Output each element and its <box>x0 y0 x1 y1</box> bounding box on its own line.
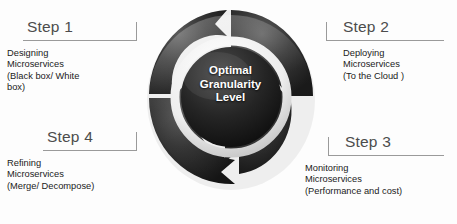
step-4-line-2: Microservices <box>7 169 94 180</box>
step-1-title: Step 1 <box>27 18 73 35</box>
step-1-block[interactable]: Step 1 Designing Microservices (Black bo… <box>27 18 73 35</box>
connector-line-step-3 <box>328 155 444 156</box>
center-label-line-1: Optimal <box>143 64 318 78</box>
step-2-line-1: Deploying <box>343 48 404 59</box>
connector-tick-step-2 <box>326 22 327 41</box>
connector-tick-step-3 <box>328 137 329 156</box>
cycle-wheel-graphic: Optimal Granularity Level <box>143 2 318 192</box>
step-1-description: Designing Microservices (Black box/ Whit… <box>7 48 79 93</box>
diagram-canvas: Optimal Granularity Level Step 1 Designi… <box>0 0 457 224</box>
step-3-description: Monitoring Microservices (Performance an… <box>305 163 402 197</box>
step-4-description: Refining Microservices (Merge/ Decompose… <box>7 158 94 192</box>
step-1-line-1: Designing <box>7 48 79 59</box>
connector-line-step-4 <box>43 150 136 151</box>
step-4-line-3: (Merge/ Decompose) <box>7 181 94 192</box>
step-4-block[interactable]: Step 4 Refining Microservices (Merge/ De… <box>47 128 93 145</box>
step-1-line-3: (Black box/ White <box>7 71 79 82</box>
center-label-line-2: Granularity <box>143 78 318 92</box>
step-3-block[interactable]: Step 3 Monitoring Microservices (Perform… <box>345 133 391 150</box>
step-4-title: Step 4 <box>47 128 93 145</box>
step-3-line-1: Monitoring <box>305 163 402 174</box>
step-2-line-2: Microservices <box>343 59 404 70</box>
step-3-title: Step 3 <box>345 133 391 150</box>
step-2-block[interactable]: Step 2 Deploying Microservices (To the C… <box>343 18 389 35</box>
step-1-line-2: Microservices <box>7 59 79 70</box>
step-2-description: Deploying Microservices (To the Cloud ) <box>343 48 404 82</box>
step-4-line-1: Refining <box>7 158 94 169</box>
connector-line-step-2 <box>326 40 444 41</box>
connector-tick-step-1 <box>136 22 137 41</box>
connector-line-step-1 <box>23 40 136 41</box>
step-1-line-4: box) <box>7 82 79 93</box>
center-label-line-3: Level <box>143 91 318 105</box>
connector-tick-step-4 <box>136 132 137 151</box>
step-2-line-3: (To the Cloud ) <box>343 71 404 82</box>
center-label: Optimal Granularity Level <box>143 64 318 105</box>
step-2-title: Step 2 <box>343 18 389 35</box>
step-3-line-2: Microservices <box>305 174 402 185</box>
step-3-line-3: (Performance and cost) <box>305 186 402 197</box>
